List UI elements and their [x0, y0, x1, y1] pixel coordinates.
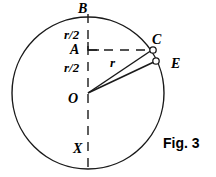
label-center-o: O: [68, 92, 78, 106]
label-point-a: A: [70, 43, 79, 57]
label-point-c: C: [152, 33, 161, 47]
label-point-x: X: [73, 142, 82, 156]
label-point-b: B: [78, 2, 87, 16]
figure-caption: Fig. 3: [163, 136, 200, 150]
radius-line-oc: [88, 50, 152, 93]
geometry-figure: B r/2 A r/2 r O X C E Fig. 3: [0, 0, 216, 177]
radius-line-oe: [88, 61, 156, 93]
label-upper-half-radius: r/2: [64, 28, 79, 41]
right-angle-marker-at-a: [88, 42, 99, 50]
point-marker-e: [153, 58, 159, 64]
label-lower-half-radius: r/2: [64, 61, 79, 74]
label-radius: r: [110, 56, 115, 69]
point-marker-c: [150, 47, 156, 53]
label-point-e: E: [171, 57, 180, 71]
